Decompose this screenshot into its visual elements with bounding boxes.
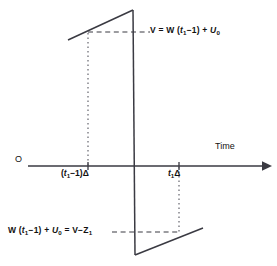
upper-eq-lhs: V = W ( (150, 25, 180, 35)
upper-eq-sub2: 0 (216, 29, 220, 36)
lower-eq-equals: = V−Z (62, 225, 89, 235)
lower-eq-mid: −1) + (29, 225, 52, 235)
lower-eq-lead: W ( (8, 225, 22, 235)
lower-eq-sub3: 1 (89, 229, 93, 236)
waveform-figure: V = W (t1−1) + U0 W (t1−1) + U0 = V−Z1 (… (0, 0, 277, 266)
retrace-vertical (133, 10, 135, 255)
tick-label-t1-delta: t1Δ (168, 169, 180, 179)
tick-label-t1-minus-1-delta: (t1−1)Δ (61, 169, 89, 179)
ramp-lower (135, 228, 203, 255)
tick-left-suffix: −1)Δ (70, 168, 89, 178)
arrow-right-icon (262, 161, 272, 171)
lower-level-equation: W (t1−1) + U0 = V−Z1 (8, 226, 92, 236)
upper-level-equation: V = W (t1−1) + U0 (150, 26, 220, 36)
tick-right-suffix: Δ (174, 168, 180, 178)
ramp-upper (68, 10, 133, 40)
origin-label: O (15, 155, 22, 164)
time-axis-label: Time (215, 142, 235, 151)
upper-eq-mid: −1) + (187, 25, 210, 35)
